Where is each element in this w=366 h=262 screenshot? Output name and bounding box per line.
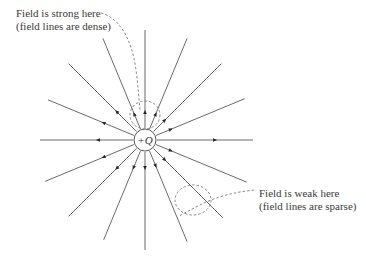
field-line (48, 100, 134, 136)
annotation-leaders (101, 13, 254, 216)
arrow-icon (143, 166, 147, 170)
annotation-strong-line-1: Field is strong here (16, 7, 111, 20)
annotation-weak-line-1: Field is weak here (259, 187, 356, 200)
field-line (69, 64, 137, 132)
annotation-weak-line-2: (field lines are sparse) (259, 200, 356, 213)
arrow-icon (213, 138, 217, 142)
field-line (45, 145, 134, 182)
point-charge: +Q (134, 129, 156, 151)
field-line (104, 151, 141, 240)
annotation-weak-field: Field is weak here (field lines are spar… (259, 187, 356, 213)
arrow-icon (96, 138, 100, 142)
field-diagram: +Q (0, 0, 366, 262)
annotation-strong-line-2: (field lines are dense) (16, 20, 111, 33)
arrow-icon (143, 110, 147, 114)
field-line (69, 148, 137, 216)
charge-label: +Q (137, 134, 152, 146)
annotation-strong-field: Field is strong here (field lines are de… (16, 7, 111, 33)
